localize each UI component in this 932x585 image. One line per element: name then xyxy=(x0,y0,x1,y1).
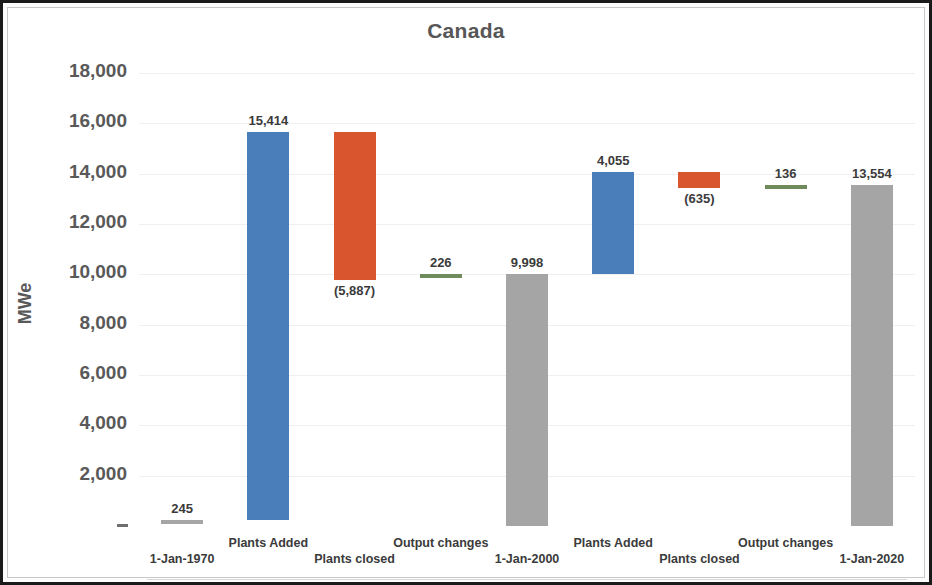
x-axis-label-5: Plants Added xyxy=(543,536,683,550)
bar-total[interactable] xyxy=(851,185,893,526)
y-axis-tick-label: 6,000 xyxy=(7,362,127,384)
y-axis-tick-label: 12,000 xyxy=(7,211,127,233)
x-axis-line xyxy=(147,579,907,580)
bar-value-label: (5,887) xyxy=(305,283,405,298)
bar-value-label: 226 xyxy=(391,255,491,270)
bar-value-label: 4,055 xyxy=(563,153,663,168)
bar-value-label: 9,998 xyxy=(477,255,577,270)
y-axis-tick-label: 18,000 xyxy=(7,60,127,82)
bar-value-label: 136 xyxy=(736,166,836,181)
y-axis-tick-label: 4,000 xyxy=(7,412,127,434)
y-axis-tick-label: 14,000 xyxy=(7,161,127,183)
x-axis-label-0: 1-Jan-1970 xyxy=(112,552,252,566)
x-axis-label-8: 1-Jan-2020 xyxy=(802,552,932,566)
x-axis-label-1: Plants Added xyxy=(198,536,338,550)
y-axis-zero-tick xyxy=(117,524,128,527)
bar-increase[interactable] xyxy=(247,132,289,520)
page-title: Canada xyxy=(3,19,929,43)
y-axis-tick-label: 8,000 xyxy=(7,312,127,334)
bar-increase[interactable] xyxy=(592,172,634,274)
bar-decrease[interactable] xyxy=(334,132,376,280)
bar-increase[interactable] xyxy=(765,185,807,189)
bar-value-label: (635) xyxy=(649,191,749,206)
bar-value-label: 245 xyxy=(132,501,232,516)
chart-frame: Canada MWe 18,00016,00014,00012,00010,00… xyxy=(0,0,932,585)
bar-total[interactable] xyxy=(161,520,203,524)
x-axis-label-4: 1-Jan-2000 xyxy=(457,552,597,566)
bar-decrease[interactable] xyxy=(678,172,720,188)
bar-total[interactable] xyxy=(506,274,548,526)
x-axis-label-6: Plants closed xyxy=(629,552,769,566)
y-axis-tick-label: 16,000 xyxy=(7,110,127,132)
bar-value-label: 15,414 xyxy=(218,113,318,128)
x-axis-label-7: Output changes xyxy=(716,536,856,550)
y-axis-tick-label: 2,000 xyxy=(7,463,127,485)
gridline xyxy=(139,73,915,74)
x-axis-label-3: Output changes xyxy=(371,536,511,550)
y-axis-tick-label: 10,000 xyxy=(7,261,127,283)
x-axis-label-2: Plants closed xyxy=(285,552,425,566)
y-axis-ticks: 18,00016,00014,00012,00010,0008,0006,000… xyxy=(3,73,127,526)
plot-area: 24515,414(5,887)2269,9984,055(635)13613,… xyxy=(139,73,915,526)
x-axis: 1-Jan-1970Plants AddedPlants closedOutpu… xyxy=(139,526,915,584)
bar-value-label: 13,554 xyxy=(822,166,922,181)
bar-increase[interactable] xyxy=(420,274,462,278)
